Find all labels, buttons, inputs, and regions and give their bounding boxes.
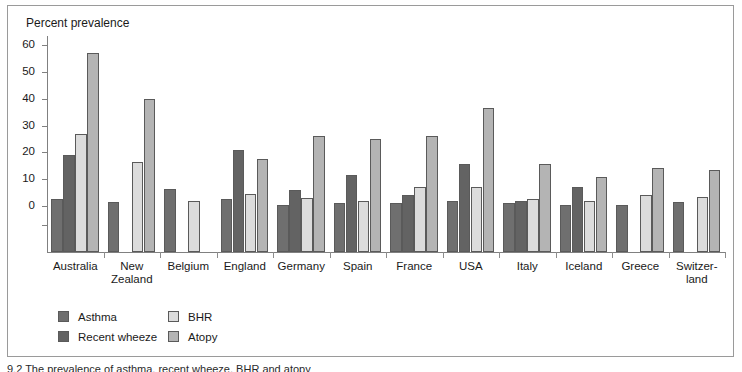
group-separator-tick: [725, 252, 726, 258]
y-tick-mark-minor: [42, 225, 48, 226]
bar: [75, 134, 87, 252]
group-separator-tick: [217, 252, 218, 258]
bar: [459, 164, 471, 252]
bar: [640, 195, 652, 252]
y-tick-label: 20: [13, 146, 35, 157]
bar: [539, 164, 551, 252]
legend-swatch-icon: [168, 311, 179, 322]
figure-caption: 9.2 The prevalence of asthma, recent whe…: [7, 363, 311, 372]
group-separator-tick: [273, 252, 274, 258]
bar: [584, 201, 596, 252]
bar: [709, 170, 721, 252]
bar: [616, 205, 628, 252]
bar: [144, 99, 156, 252]
bar: [503, 203, 515, 252]
y-tick-mark: [42, 99, 48, 100]
group-separator-tick: [386, 252, 387, 258]
bar: [572, 187, 584, 252]
bar: [301, 198, 313, 252]
legend-column-1: AsthmaRecent wheeze: [58, 308, 157, 348]
legend-item: BHR: [168, 308, 217, 325]
x-category-label: Switzer- land: [663, 260, 732, 286]
legend-swatch-icon: [168, 331, 179, 342]
bar: [63, 155, 75, 252]
y-tick-mark: [42, 45, 48, 46]
legend-item: Asthma: [58, 308, 157, 325]
bar: [426, 136, 438, 252]
bar: [560, 205, 572, 252]
group-separator-tick: [160, 252, 161, 258]
group-separator-tick: [330, 252, 331, 258]
bar: [697, 197, 709, 252]
bar: [390, 203, 402, 252]
bar: [358, 201, 370, 252]
bar: [51, 199, 63, 252]
bar: [447, 201, 459, 252]
y-tick-label: 0: [13, 200, 35, 211]
bar: [313, 136, 325, 252]
y-tick-mark: [42, 126, 48, 127]
y-tick-mark: [42, 152, 48, 153]
legend-label: Atopy: [188, 331, 217, 343]
legend-swatch-icon: [58, 311, 69, 322]
bar: [277, 205, 289, 252]
y-tick-label: 40: [13, 93, 35, 104]
bar: [596, 177, 608, 252]
legend-swatch-icon: [58, 331, 69, 342]
bar: [402, 195, 414, 252]
y-tick-label: 30: [13, 120, 35, 131]
group-separator-tick: [499, 252, 500, 258]
bar: [673, 202, 685, 252]
bar: [346, 175, 358, 252]
bar: [108, 202, 120, 252]
legend-label: BHR: [188, 311, 212, 323]
legend-item: Atopy: [168, 328, 217, 345]
group-separator-tick: [669, 252, 670, 258]
y-tick-label: 10: [13, 173, 35, 184]
bar: [221, 199, 233, 252]
group-separator-tick: [556, 252, 557, 258]
bar: [414, 187, 426, 252]
y-axis-title: Percent prevalence: [26, 16, 129, 30]
bar: [471, 187, 483, 252]
bar: [164, 189, 176, 252]
figure-root: Percent prevalence 0102030405060 Austral…: [0, 0, 742, 372]
group-separator-tick: [443, 252, 444, 258]
y-tick-label: 60: [13, 39, 35, 50]
bar: [370, 139, 382, 252]
bar: [233, 150, 245, 252]
bar: [527, 199, 539, 252]
bar: [188, 201, 200, 252]
y-tick-mark: [42, 179, 48, 180]
group-separator-tick: [612, 252, 613, 258]
y-tick-mark: [42, 72, 48, 73]
legend-label: Recent wheeze: [78, 331, 157, 343]
legend-column-2: BHRAtopy: [168, 308, 217, 348]
bar: [245, 194, 257, 252]
y-axis-line: [47, 36, 48, 253]
bar: [257, 159, 269, 252]
group-separator-tick: [104, 252, 105, 258]
bar: [334, 203, 346, 252]
y-tick-mark: [42, 206, 48, 207]
bar: [652, 168, 664, 252]
bar: [87, 53, 99, 252]
bar: [289, 190, 301, 252]
legend-label: Asthma: [78, 311, 117, 323]
bar: [515, 201, 527, 252]
bar: [483, 108, 495, 252]
bar: [132, 162, 144, 252]
y-tick-label: 50: [13, 66, 35, 77]
legend-item: Recent wheeze: [58, 328, 157, 345]
